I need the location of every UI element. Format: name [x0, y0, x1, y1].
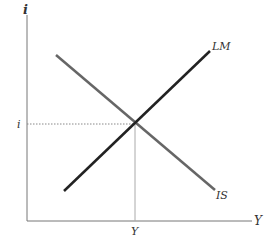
lm-label: LM [211, 40, 231, 53]
is-label: IS [215, 189, 228, 202]
lm-curve [64, 51, 210, 191]
equilibrium-i-label: i [17, 118, 21, 131]
x-axis-label: Y [254, 214, 263, 228]
diagram-canvas: i Y i Y LM IS [0, 0, 275, 247]
islm-diagram: i Y i Y LM IS [0, 0, 275, 247]
y-axis-label: i [23, 2, 28, 17]
equilibrium-Y-label: Y [131, 225, 140, 238]
